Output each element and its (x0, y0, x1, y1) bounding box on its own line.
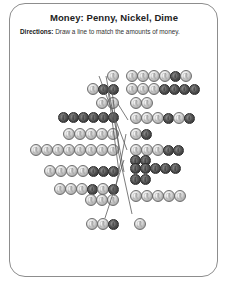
nickel-coin (107, 128, 119, 140)
nickel-coin (130, 128, 142, 140)
coin-row (80, 97, 118, 109)
nickel-coin (96, 97, 108, 109)
nickel-coin (96, 194, 108, 206)
coin-row (126, 83, 222, 95)
coin-groups-area (0, 0, 228, 286)
penny-coin (108, 112, 119, 123)
penny-coin (169, 84, 180, 95)
nickel-coin (74, 144, 86, 156)
nickel-coin (87, 83, 99, 95)
coin-row (22, 194, 118, 206)
nickel-coin (44, 165, 56, 177)
nickel-coin (130, 97, 142, 109)
penny-coin (159, 84, 170, 95)
nickel-coin (85, 128, 97, 140)
coin-row (62, 83, 118, 95)
coin-row (88, 70, 118, 82)
nickel-coin (141, 190, 153, 202)
nickel-coin (77, 165, 89, 177)
penny-coin (98, 166, 109, 177)
nickel-coin (96, 128, 108, 140)
penny-coin (173, 145, 184, 156)
nickel-coin (141, 97, 153, 109)
penny-coin (163, 113, 174, 124)
penny-coin (108, 84, 119, 95)
coin-row (18, 144, 118, 156)
penny-coin (141, 129, 152, 140)
penny-coin (189, 84, 200, 95)
penny-coin (179, 84, 190, 95)
coin-row (130, 163, 222, 174)
nickel-coin (130, 112, 142, 124)
nickel-coin (148, 83, 160, 95)
penny-coin (163, 145, 174, 156)
worksheet-page: Money: Penny, Nickel, Dime Directions: D… (0, 0, 228, 286)
coin-row (130, 128, 170, 140)
coin-row (130, 97, 170, 109)
nickel-coin (86, 218, 98, 230)
penny-coin (108, 166, 119, 177)
nickel-coin (180, 70, 192, 82)
nickel-coin (96, 144, 108, 156)
nickel-coin (107, 70, 119, 82)
nickel-coin (55, 165, 67, 177)
coin-row (78, 218, 118, 230)
penny-coin (78, 112, 89, 123)
nickel-coin (107, 194, 119, 206)
nickel-coin (66, 165, 78, 177)
nickel-coin (52, 144, 64, 156)
coin-row (134, 218, 164, 230)
penny-coin (88, 112, 99, 123)
penny-coin (88, 166, 99, 177)
penny-coin (140, 174, 151, 185)
nickel-coin (152, 112, 164, 124)
nickel-coin (152, 190, 164, 202)
penny-coin (98, 112, 109, 123)
penny-coin (160, 163, 171, 174)
penny-coin (98, 84, 109, 95)
penny-coin (108, 184, 119, 195)
nickel-coin (97, 218, 109, 230)
coin-row (130, 174, 222, 185)
nickel-coin (63, 128, 75, 140)
coin-row (36, 112, 118, 123)
nickel-coin (30, 144, 42, 156)
penny-coin (108, 219, 119, 230)
coin-row (126, 70, 222, 82)
nickel-coin (63, 144, 75, 156)
penny-coin (184, 113, 195, 124)
nickel-coin (173, 112, 185, 124)
coin-row (46, 128, 118, 140)
penny-coin (68, 112, 79, 123)
nickel-coin (130, 190, 142, 202)
penny-coin (87, 184, 98, 195)
nickel-coin (74, 128, 86, 140)
nickel-coin (174, 190, 186, 202)
nickel-coin (137, 70, 149, 82)
nickel-coin (134, 218, 146, 230)
nickel-coin (148, 70, 160, 82)
penny-coin (130, 174, 141, 185)
nickel-coin (159, 70, 171, 82)
coin-row (20, 165, 118, 177)
penny-coin (130, 163, 141, 174)
nickel-coin (85, 144, 97, 156)
nickel-coin (107, 97, 119, 109)
nickel-coin (126, 83, 138, 95)
penny-coin (150, 163, 161, 174)
nickel-coin (126, 70, 138, 82)
coin-row (130, 190, 222, 202)
nickel-coin (163, 190, 175, 202)
nickel-coin (141, 112, 153, 124)
penny-coin (140, 163, 151, 174)
nickel-coin (107, 144, 119, 156)
nickel-coin (85, 194, 97, 206)
penny-coin (170, 163, 181, 174)
coin-row (130, 112, 222, 124)
penny-coin (58, 112, 69, 123)
penny-coin (170, 71, 181, 82)
nickel-coin (137, 83, 149, 95)
nickel-coin (41, 144, 53, 156)
